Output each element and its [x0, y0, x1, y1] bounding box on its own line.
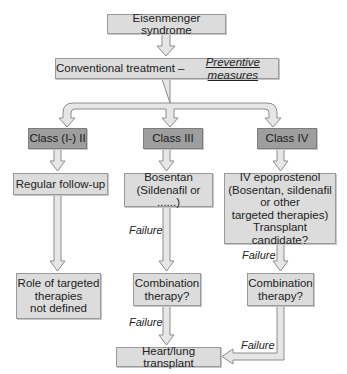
eisenmenger-syndrome-node: Eisenmenger syndrome	[107, 14, 226, 34]
regular-follow-up-node: Regular follow-up	[13, 173, 108, 195]
node-line: (Bosentan, sildenafil	[228, 184, 332, 197]
node-label: Heart/lung transplant	[117, 345, 220, 370]
failure-label: Failure	[242, 249, 276, 261]
node-line: IV epoprostenol	[240, 171, 321, 184]
arrow-down-icon	[159, 207, 174, 271]
arrow-down-icon	[50, 195, 65, 271]
node-label: Class (I-) II	[29, 132, 85, 145]
node-line: therapy?	[145, 290, 190, 303]
node-label: Eisenmenger syndrome	[108, 12, 225, 37]
node-line: therapies	[35, 290, 82, 303]
failure-label: Failure	[129, 224, 163, 236]
node-line: Role of targeted	[18, 277, 100, 290]
node-label: Class IV	[266, 132, 309, 145]
arrow-down-icon	[157, 34, 175, 56]
node-line: (Sildenafil or ......)	[125, 184, 212, 209]
node-label: Class III	[152, 132, 194, 145]
node-line: or other	[260, 196, 300, 209]
node-line: Combination	[135, 277, 200, 290]
bosentan-node: Bosentan (Sildenafil or ......)	[124, 173, 213, 207]
combination-therapy-class-iii-node: Combination therapy?	[133, 273, 201, 306]
node-line: targeted therapies)	[232, 209, 329, 222]
arrow-down-icon	[50, 149, 65, 171]
class-ii-node: Class (I-) II	[28, 128, 87, 149]
role-targeted-therapies-node: Role of targeted therapies not defined	[16, 273, 101, 319]
node-label: Conventional treatment –	[56, 62, 188, 75]
failure-label: Failure	[241, 339, 275, 351]
node-label-emphasis: Preventive measures	[188, 56, 278, 81]
node-line: Bosentan	[144, 171, 193, 184]
node-line: not defined	[30, 302, 87, 315]
arrow-left-icon	[222, 306, 284, 364]
branch-connector	[59, 79, 281, 127]
node-label: Regular follow-up	[16, 178, 106, 191]
node-line: Combination	[248, 277, 313, 290]
heart-lung-transplant-node: Heart/lung transplant	[116, 347, 221, 367]
node-line: therapy?	[258, 290, 303, 303]
node-line: Transplant candidate?	[225, 221, 335, 246]
iv-epoprostenol-node: IV epoprostenol (Bosentan, sildenafil or…	[224, 173, 336, 244]
failure-label: Failure	[129, 316, 163, 328]
class-iii-node: Class III	[143, 128, 203, 149]
conventional-treatment-node: Conventional treatment – Preventive meas…	[55, 58, 279, 79]
combination-therapy-class-iv-node: Combination therapy?	[247, 273, 314, 306]
arrow-down-icon	[273, 149, 288, 171]
arrow-down-icon	[159, 149, 174, 171]
class-iv-node: Class IV	[257, 128, 317, 149]
